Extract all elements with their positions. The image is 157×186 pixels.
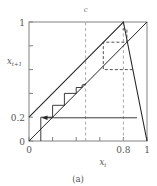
c-marker-label: c <box>84 6 88 14</box>
x-tick-label-1: 1 <box>144 145 150 155</box>
y-axis-label-sub: t+1 <box>12 61 22 67</box>
x-tick-label-0: 0 <box>26 145 32 155</box>
x-axis-label: xt <box>99 157 107 168</box>
x-axis-label-sub: t <box>104 162 107 168</box>
y-tick-label-0-2: 0.2 <box>11 113 25 123</box>
figure-panel: c 1 0.2 0 0 0.8 1 xt+1 xt (a) <box>0 0 157 186</box>
cobweb-plot-svg: c 1 0.2 0 0 0.8 1 xt+1 xt (a) <box>0 0 157 186</box>
y-tick-label-1: 1 <box>19 18 25 28</box>
y-tick-label-0: 0 <box>19 137 25 147</box>
figure-caption: (a) <box>72 174 84 184</box>
y-axis-label: xt+1 <box>7 56 22 67</box>
x-tick-label-0-8: 0.8 <box>116 145 131 155</box>
